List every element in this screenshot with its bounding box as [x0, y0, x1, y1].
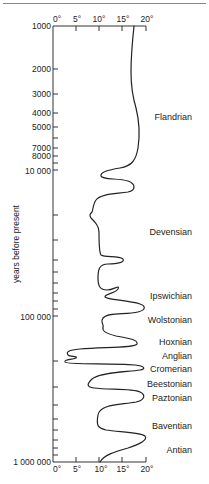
stage-label-devensian: Devensian [149, 227, 192, 237]
y-tick-label: 8000 [32, 151, 51, 161]
x-tick-label: 0° [53, 464, 61, 474]
y-tick-label: 4000 [32, 108, 51, 118]
y-tick-label: 3000 [32, 89, 51, 99]
x-tick-label: 15° [117, 14, 130, 24]
y-tick-label: 2000 [32, 64, 51, 74]
stage-labels: Flandrian Devensian Ipswichian Wolstonia… [147, 112, 192, 455]
y-tick-label: 5000 [32, 122, 51, 132]
stage-label-baventian: Baventian [152, 421, 192, 431]
x-tick-label: 5° [73, 14, 81, 24]
y-tick-label: 100 000 [20, 312, 51, 322]
x-tick-labels-top: 0° 5° 10° 15° 20° [53, 14, 154, 24]
stage-label-hoxnian: Hoxnian [159, 337, 192, 347]
stage-label-ipswichian: Ipswichian [150, 291, 192, 301]
stage-label-paztonian: Paztonian [152, 393, 192, 403]
stage-label-wolstonian: Wolstonian [148, 315, 192, 325]
y-tick-label: 10 000 [25, 166, 51, 176]
x-tick-label: 20° [141, 464, 154, 474]
stage-label-antian: Antian [166, 445, 192, 455]
y-ticks [53, 69, 58, 455]
x-tick-label: 15° [117, 464, 130, 474]
y-tick-label: 1000 [32, 21, 51, 31]
stage-label-flandrian: Flandrian [154, 112, 192, 122]
stage-label-cromerian: Cromerian [150, 364, 192, 374]
y-tick-label: 1 000 000 [13, 457, 51, 467]
y-axis-title: years before present [11, 204, 21, 283]
x-ticks-top [76, 26, 146, 31]
x-tick-label: 5° [73, 464, 81, 474]
stage-label-beestonian: Beestonian [147, 379, 192, 389]
x-tick-label: 10° [93, 14, 106, 24]
x-ticks-bottom [76, 457, 146, 462]
x-tick-labels-bottom: 0° 5° 10° 15° 20° [53, 464, 154, 474]
x-tick-label: 10° [95, 464, 108, 474]
temperature-curve [65, 26, 146, 462]
x-tick-label: 20° [141, 14, 154, 24]
climate-chart: 0° 5° 10° 15° 20° 0° 5° 10° 15° 20° [0, 0, 209, 484]
stage-label-anglian: Anglian [162, 351, 192, 361]
x-tick-label: 0° [53, 14, 61, 24]
